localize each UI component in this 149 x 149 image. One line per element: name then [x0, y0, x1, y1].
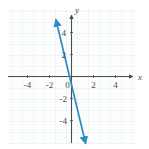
ytick-label-pos2: 2 [62, 50, 67, 60]
y-axis-label: y [74, 5, 79, 15]
ytick-label-pos4: 4 [62, 28, 67, 38]
ytick-label-neg2: -2 [60, 94, 68, 104]
graph-figure: -4 -2 0 2 4 4 2 -2 -4 x y [0, 0, 149, 149]
xtick-label-pos4: 4 [113, 80, 118, 90]
x-axis-label: x [137, 72, 142, 82]
xtick-label-neg2: -2 [46, 80, 54, 90]
xtick-label-neg4: -4 [24, 80, 32, 90]
origin-label: 0 [65, 80, 70, 90]
xtick-label-pos2: 2 [91, 80, 96, 90]
coordinate-plane-svg: -4 -2 0 2 4 4 2 -2 -4 x y [0, 0, 149, 149]
ytick-label-neg4: -4 [60, 116, 68, 126]
